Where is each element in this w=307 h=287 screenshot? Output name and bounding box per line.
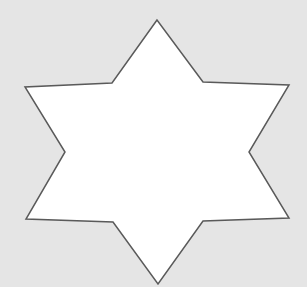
six-pointed-star-shape (25, 20, 289, 284)
star-diagram (0, 0, 307, 287)
canvas (0, 0, 307, 287)
